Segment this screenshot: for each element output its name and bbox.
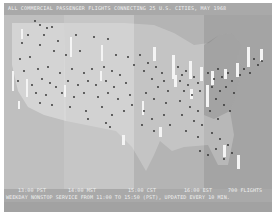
- display-screen: ALL COMMERCIAL PASSENGER FLIGHTS CONNECT…: [4, 3, 272, 212]
- mst-time-label: 14:00 MST: [68, 187, 96, 193]
- us-flight-map: [4, 15, 272, 189]
- est-time-label: 16:00 EST: [184, 187, 212, 193]
- service-caption: WEEKDAY NONSTOP SERVICE FROM 11:00 TO 15…: [6, 194, 230, 200]
- map-title: ALL COMMERCIAL PASSENGER FLIGHTS CONNECT…: [8, 5, 270, 11]
- bottom-band: [4, 202, 272, 212]
- cst-time-label: 15:00 CST: [128, 187, 156, 193]
- pst-time-label: 13:00 PST: [18, 187, 46, 193]
- flight-count: 700 FLIGHTS: [228, 187, 262, 193]
